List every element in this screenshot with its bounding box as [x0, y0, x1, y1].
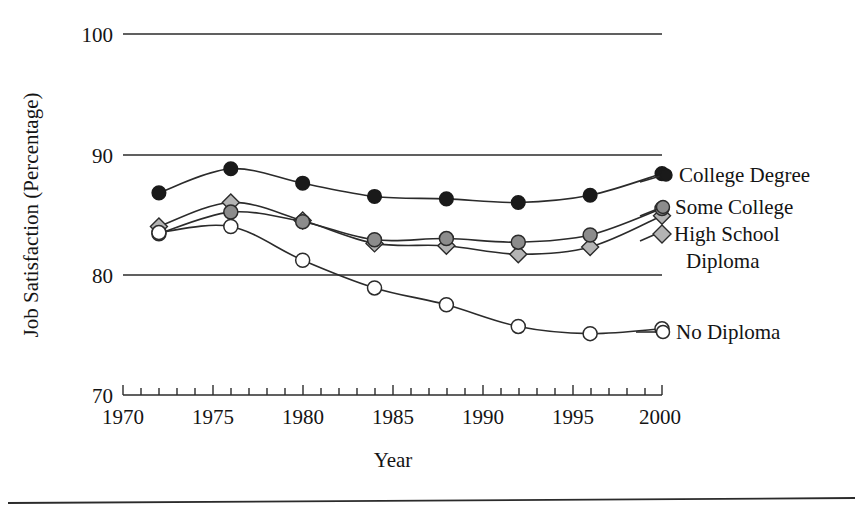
data-point-college-degree-1972: [152, 186, 166, 200]
data-point-college-degree-1996: [583, 188, 597, 202]
y-axis-title: Job Satisfaction (Percentage): [19, 93, 43, 338]
data-point-college-degree-1988: [440, 192, 454, 206]
x-tick-label-1985: 1985: [372, 405, 414, 429]
gridlines: [123, 34, 662, 275]
legend-label-high-school-line2: Diploma: [686, 249, 760, 273]
data-point-some-college-1984: [368, 233, 382, 247]
legend-label-high-school: High School: [674, 222, 780, 246]
x-tick-label-1980: 1980: [282, 405, 324, 429]
data-point-no-diploma-1988: [439, 298, 453, 312]
x-axis: [123, 385, 662, 395]
data-point-no-diploma-1996: [583, 327, 597, 341]
data-point-some-college-1996: [583, 228, 597, 242]
legend-label-some-college: Some College: [675, 195, 793, 219]
data-point-some-college-1988: [439, 232, 453, 246]
legend: College Degree Some College High School …: [636, 163, 810, 344]
y-tick-label-100: 100: [82, 23, 114, 47]
line-chart-svg: 100 90 80 70 1970 1975 1980 1985 1990 19…: [0, 0, 863, 520]
x-tick-label-2000: 2000: [639, 405, 681, 429]
data-point-college-degree-1992: [511, 196, 525, 210]
data-point-some-college-1992: [511, 235, 525, 249]
data-point-some-college-1976: [224, 205, 238, 219]
chart-figure: 100 90 80 70 1970 1975 1980 1985 1990 19…: [0, 0, 863, 520]
legend-marker-no-diploma: [657, 326, 670, 339]
data-point-no-diploma-1980: [296, 253, 310, 267]
x-axis-title: Year: [374, 448, 413, 472]
x-tick-label-1975: 1975: [192, 405, 234, 429]
data-point-college-degree-1980: [296, 176, 310, 190]
bottom-divider-rule: [8, 498, 855, 503]
data-point-some-college-1980: [296, 215, 310, 229]
data-point-college-degree-1976: [224, 162, 238, 176]
legend-marker-high-school: [653, 225, 671, 243]
legend-label-college-degree: College Degree: [679, 163, 810, 187]
data-point-no-diploma-1984: [368, 281, 382, 295]
legend-label-no-diploma: No Diploma: [676, 320, 781, 344]
x-tick-label-1995: 1995: [552, 405, 594, 429]
data-point-no-diploma-1972: [152, 226, 166, 240]
x-tick-label-1990: 1990: [462, 405, 504, 429]
x-tick-label-1970: 1970: [102, 405, 144, 429]
data-point-no-diploma-1992: [511, 319, 525, 333]
data-point-no-diploma-1976: [224, 220, 238, 234]
data-point-college-degree-1984: [368, 190, 382, 204]
series-markers: [150, 162, 670, 341]
legend-marker-college-degree: [660, 169, 672, 181]
legend-marker-some-college: [657, 201, 670, 214]
y-tick-label-80: 80: [92, 264, 113, 288]
y-tick-label-90: 90: [92, 144, 113, 168]
